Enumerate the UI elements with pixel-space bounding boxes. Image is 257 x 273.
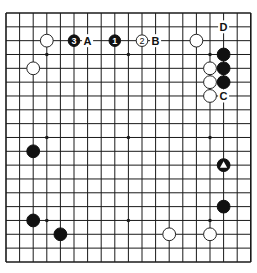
- go-board-diagram: ABCD 312: [0, 0, 257, 273]
- stone-circle: [27, 62, 40, 75]
- white-stone: [204, 76, 217, 89]
- stone-circle: [217, 200, 230, 213]
- star-point: [45, 136, 49, 140]
- black-stone: [217, 159, 230, 172]
- white-stone: [204, 228, 217, 241]
- board-label-b: B: [152, 35, 160, 47]
- move-number: 3: [71, 36, 76, 46]
- star-point: [127, 219, 131, 223]
- black-stone: [217, 200, 230, 213]
- stone-circle: [163, 228, 176, 241]
- black-stone: [27, 214, 40, 227]
- stone-circle: [27, 214, 40, 227]
- black-stone: [217, 76, 230, 89]
- stone-circle: [217, 62, 230, 75]
- star-point: [208, 136, 212, 140]
- star-point: [127, 136, 131, 140]
- white-stone: [190, 34, 203, 47]
- stone-circle: [217, 76, 230, 89]
- black-stone: [217, 48, 230, 61]
- move-number: 1: [112, 36, 117, 46]
- stone-circle: [27, 145, 40, 158]
- stone-circle: [217, 48, 230, 61]
- star-point: [208, 219, 212, 223]
- white-stone: [40, 34, 53, 47]
- black-stone-3: 3: [68, 35, 80, 47]
- move-number: 2: [139, 36, 144, 46]
- star-point: [127, 53, 131, 57]
- stone-circle: [204, 228, 217, 241]
- white-stone-2: 2: [136, 35, 148, 47]
- star-point: [45, 53, 49, 57]
- board-label-d: D: [220, 21, 228, 33]
- white-stone: [163, 228, 176, 241]
- stone-circle: [40, 34, 53, 47]
- black-stone: [54, 228, 67, 241]
- star-point: [45, 219, 49, 223]
- stone-circle: [204, 76, 217, 89]
- star-point: [208, 53, 212, 57]
- board-label-c: C: [220, 90, 228, 102]
- stone-circle: [54, 228, 67, 241]
- black-stone-1: 1: [109, 35, 121, 47]
- stone-circle: [190, 34, 203, 47]
- board-label-a: A: [84, 35, 92, 47]
- white-stone: [27, 62, 40, 75]
- stone-circle: [204, 62, 217, 75]
- black-stone: [27, 145, 40, 158]
- white-stone: [204, 62, 217, 75]
- black-stone: [217, 62, 230, 75]
- go-board: ABCD 312: [0, 0, 257, 273]
- stone-circle: [204, 90, 217, 103]
- white-stone: [204, 90, 217, 103]
